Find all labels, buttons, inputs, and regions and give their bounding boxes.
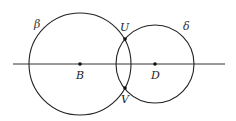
label-delta: δ xyxy=(183,20,190,33)
label-v: V xyxy=(121,93,130,106)
point-v xyxy=(123,86,127,90)
point-u xyxy=(123,37,127,41)
label-beta: β xyxy=(33,18,40,31)
label-u: U xyxy=(120,21,130,34)
label-b: B xyxy=(75,69,84,82)
point-d xyxy=(153,62,157,66)
point-b xyxy=(78,62,82,66)
label-d: D xyxy=(150,69,160,82)
geometry-diagram: β δ B D U V xyxy=(0,0,236,121)
